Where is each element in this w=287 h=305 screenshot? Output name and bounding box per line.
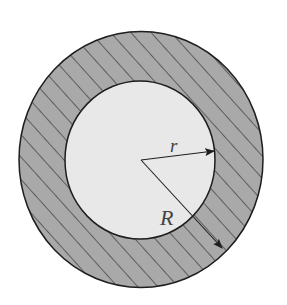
outer-radius-label: R [159,205,174,230]
inner-radius-label: r [170,135,178,156]
annulus-diagram: r R [0,0,287,305]
